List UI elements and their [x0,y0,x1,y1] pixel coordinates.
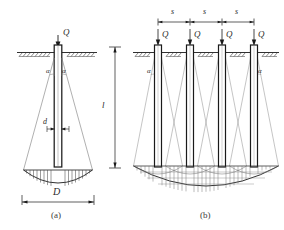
pile-length-dimension-group [109,47,121,168]
spread-width-label-a: D [53,187,60,197]
piles-b [155,45,258,167]
spread-dim-arrow-right-a [89,200,95,203]
length-dim-arrow-bottom [113,163,116,169]
load-arrows-b [156,29,256,46]
pile-length-label: l [102,101,105,110]
alpha-label-right-b: α [258,68,262,75]
load-label-3-b: Q [226,30,233,39]
spacing-label-1-b: s [171,8,174,16]
alpha-label-left-a: α [46,68,50,75]
panel-b-group [133,19,279,193]
alpha-arc-left-a [50,74,54,75]
length-dim-arrow-top [113,47,116,53]
spread-dim-arrow-left-a [22,200,28,203]
load-label-1-b: Q [162,30,169,39]
spacing-label-2-b: s [203,8,206,16]
stress-spread-right-a [62,58,93,170]
caption-a: (a) [51,211,61,220]
pile-width-label-a: d [43,118,47,126]
pile-stress-distribution-figure [0,0,284,230]
panel-a-group [17,35,97,205]
caption-b: (b) [200,211,211,220]
alpha-label-left-b: α [147,68,151,75]
stress-bulb-curve-a [24,170,93,183]
load-label-a: Q [63,28,70,37]
load-label-2-b: Q [194,30,201,39]
spacing-label-3-b: s [235,8,238,16]
load-label-4-b: Q [258,30,265,39]
alpha-marks-b [151,58,261,76]
alpha-label-right-a: α [62,68,66,75]
